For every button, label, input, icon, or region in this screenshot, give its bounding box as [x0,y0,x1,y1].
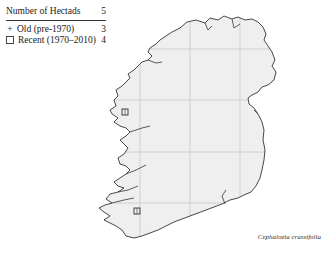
legend-count-recent: 4 [101,35,106,46]
legend-row-recent: Recent (1970–2010) 4 [6,35,106,46]
square-icon [6,36,14,44]
legend-count-old: 3 [101,24,106,35]
legend-total: 5 [101,6,106,17]
legend-row-old: +Old (pre-1970) 3 [6,24,106,35]
legend-header: Number of Hectads 5 [6,6,106,21]
plus-icon: + [6,24,14,35]
legend-title: Number of Hectads [6,6,80,16]
species-caption: Cephalozia crassifolia [258,233,321,241]
legend-label-recent: Recent (1970–2010) [18,35,96,45]
map-legend: Number of Hectads 5 +Old (pre-1970) 3 Re… [6,6,106,46]
legend-label-old: Old (pre-1970) [17,24,74,34]
